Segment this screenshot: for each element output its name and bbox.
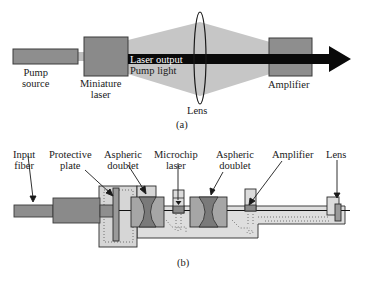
pump-source-label: Pump source	[22, 67, 49, 89]
microchip-laser-label-line2: laser	[154, 160, 198, 171]
lens-a-label: Lens	[187, 105, 207, 116]
lens-b-label: Lens	[326, 149, 346, 160]
laser-output-label: Laser output	[130, 54, 183, 65]
aspheric-doublet-2-label-line1: Aspheric	[216, 149, 254, 160]
microchip-laser-block	[173, 190, 184, 213]
protective-plate-label-line2: plate	[49, 160, 92, 171]
aspheric-doublet-1-label-line1: Aspheric	[104, 149, 142, 160]
input-fiber-label: Input fiber	[13, 149, 35, 171]
aspheric-doublet-2-label-line2: doublet	[216, 160, 254, 171]
amplifier-b-label: Amplifier	[272, 149, 313, 160]
caption-b: (b)	[177, 257, 189, 268]
aspheric-doublet-1	[131, 197, 164, 227]
pump-light-label: Pump light	[130, 65, 176, 76]
connector-ferrule	[100, 205, 114, 217]
amplifier-a-label: Amplifier	[268, 79, 309, 90]
aspheric-doublet-1-label: Aspheric doublet	[104, 149, 142, 171]
microchip-laser-label-line1: Microchip	[154, 149, 198, 160]
aspheric-doublet-1-label-line2: doublet	[104, 160, 142, 171]
miniature-laser-block	[84, 37, 128, 76]
aspheric-doublet-2-label: Aspheric doublet	[216, 149, 254, 171]
miniature-laser-label-line1: Miniature	[80, 78, 121, 89]
pump-source-block	[13, 49, 78, 64]
protective-plate-label-line1: Protective	[49, 149, 92, 160]
aspheric-doublet-2	[190, 197, 227, 227]
fiber-connector-block	[53, 198, 100, 223]
caption-a: (a)	[176, 119, 188, 130]
input-fiber-block	[14, 205, 53, 217]
protective-plate-block	[113, 188, 119, 241]
input-fiber-label-line2: fiber	[13, 160, 35, 171]
diagram-canvas	[0, 0, 368, 282]
pump-source-label-line2: source	[22, 78, 49, 89]
input-fiber-label-line1: Input	[13, 149, 35, 160]
miniature-laser-label: Miniature laser	[80, 78, 121, 100]
miniature-laser-label-line2: laser	[80, 89, 121, 100]
doublet-mount-top	[137, 186, 156, 198]
microchip-laser-label: Microchip laser	[154, 149, 198, 171]
pump-source-label-line1: Pump	[22, 67, 49, 78]
protective-plate-label: Protective plate	[49, 149, 92, 171]
